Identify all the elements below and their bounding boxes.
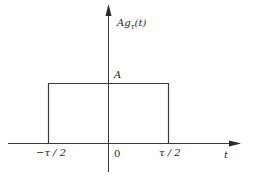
- y-axis-label: Agτ(t): [117, 18, 146, 31]
- y-label-arg: (t): [135, 17, 147, 28]
- tick-label-pos-half-tau: τ / 2: [159, 148, 181, 158]
- amplitude-label: A: [114, 70, 121, 80]
- x-axis-arrow-icon: [229, 141, 241, 147]
- tick-label-zero: 0: [114, 149, 120, 159]
- tick-label-neg-half-tau: −τ / 2: [36, 148, 66, 158]
- y-axis-arrow-icon: [106, 4, 112, 16]
- y-label-main: Ag: [117, 17, 131, 28]
- x-axis-label: t: [224, 150, 228, 160]
